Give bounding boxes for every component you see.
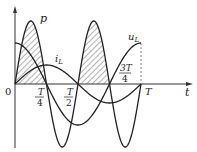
svg-text:4: 4 — [37, 98, 43, 108]
label-u-L: uL — [128, 31, 139, 44]
svg-text:2: 2 — [66, 98, 72, 108]
y-axis-arrow-icon — [13, 6, 17, 13]
tick-T: T — [145, 86, 153, 97]
svg-text:T: T — [38, 87, 45, 97]
tick-T-over-4: T 4 — [35, 87, 45, 108]
label-i-L: iL — [55, 53, 63, 66]
label-p: p — [40, 12, 47, 25]
tick-3T-over-4: 3T 4 — [119, 63, 133, 84]
svg-text:T: T — [67, 87, 74, 97]
waveform-diagram: p iL uL 0 T 4 T 2 3T 4 T t — [0, 0, 197, 152]
x-axis-label: t — [185, 86, 190, 99]
label-origin: 0 — [5, 86, 11, 97]
tick-T-over-2: T 2 — [64, 87, 74, 108]
svg-text:3T: 3T — [120, 63, 133, 73]
svg-text:4: 4 — [122, 74, 128, 84]
